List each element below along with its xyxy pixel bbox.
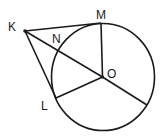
label-k: K (8, 20, 16, 34)
radius-ol (56, 77, 103, 98)
label-m: M (96, 8, 106, 22)
point-k-dot (23, 29, 27, 33)
point-o-dot (101, 75, 104, 78)
radius-op (103, 77, 148, 105)
tangent-km (25, 23, 101, 31)
geometry-diagram: K M N O L (0, 0, 164, 137)
label-n: N (52, 32, 61, 46)
secant-ko (25, 31, 103, 77)
label-l: L (41, 99, 48, 113)
label-o: O (107, 67, 116, 81)
radius-om (101, 23, 103, 77)
